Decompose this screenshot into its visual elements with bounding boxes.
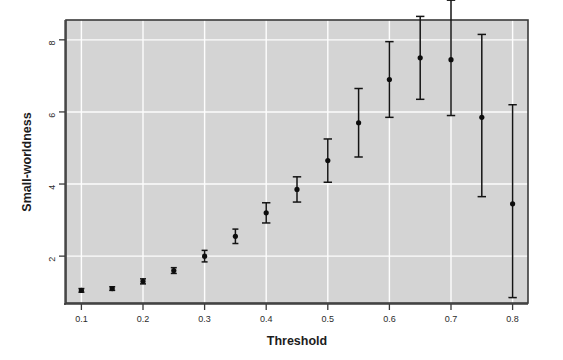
data-point-marker-10 xyxy=(387,77,392,82)
data-point-marker-5 xyxy=(233,234,238,239)
data-point-marker-13 xyxy=(479,115,484,120)
y-tick-label-3: 8 xyxy=(47,41,57,46)
x-axis-title: Threshold xyxy=(267,334,327,348)
data-point-marker-8 xyxy=(325,158,330,163)
data-point-group-1 xyxy=(109,286,115,291)
y-tick-label-2: 6 xyxy=(47,113,57,118)
data-point-group-2 xyxy=(140,279,146,284)
data-point-marker-9 xyxy=(356,120,361,125)
data-point-marker-4 xyxy=(202,254,207,259)
data-point-marker-0 xyxy=(79,288,84,293)
x-tick-label-2: 0.3 xyxy=(198,314,211,324)
x-tick-label-6: 0.7 xyxy=(445,314,458,324)
x-tick-label-0: 0.1 xyxy=(75,314,88,324)
data-point-marker-7 xyxy=(294,187,299,192)
data-point-marker-11 xyxy=(418,55,423,60)
y-tick-label-1: 4 xyxy=(47,185,57,190)
data-point-marker-14 xyxy=(510,201,515,206)
y-axis-title: Small-worldness xyxy=(20,112,34,211)
y-tick-label-0: 2 xyxy=(47,257,57,262)
x-tick-label-7: 0.8 xyxy=(506,314,519,324)
plot-panel-background xyxy=(66,20,528,303)
chart-figure: 0.10.20.30.40.50.60.70.8 2468 Threshold … xyxy=(0,0,563,360)
data-point-marker-1 xyxy=(110,286,115,291)
data-point-marker-3 xyxy=(171,268,176,273)
x-tick-label-1: 0.2 xyxy=(137,314,150,324)
data-point-marker-2 xyxy=(140,279,145,284)
x-tick-label-4: 0.5 xyxy=(322,314,335,324)
data-point-marker-6 xyxy=(264,210,269,215)
smallworldness-threshold-scatter-plot: 0.10.20.30.40.50.60.70.8 2468 Threshold … xyxy=(0,0,563,360)
x-tick-label-5: 0.6 xyxy=(383,314,396,324)
x-tick-label-3: 0.4 xyxy=(260,314,273,324)
data-point-marker-12 xyxy=(448,57,453,62)
data-point-group-0 xyxy=(78,288,84,293)
